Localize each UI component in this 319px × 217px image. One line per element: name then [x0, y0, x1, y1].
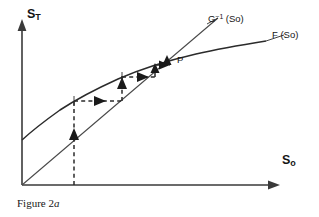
- figure-caption: Figure 2a: [17, 197, 59, 209]
- cobweb-arrow-right-1-icon: [94, 96, 106, 106]
- fso-curve: [22, 41, 266, 140]
- figure-caption-suffix: a: [54, 197, 60, 209]
- y-axis-label: ST: [27, 8, 41, 21]
- figure-caption-text: Figure 2: [17, 197, 54, 209]
- cobweb-arrow-right-2-icon: [137, 72, 149, 82]
- x-axis-label: So: [282, 154, 296, 167]
- cobweb-group: [69, 55, 172, 185]
- ginv-curve-label: G−1 (So): [208, 14, 244, 24]
- fso-curve-group: [22, 35, 284, 140]
- fso-curve-label: F (So): [272, 30, 298, 40]
- x-axis-arrow-icon: [268, 181, 280, 190]
- cobweb-arrow-up-1-icon: [69, 128, 79, 140]
- y-axis-arrow-icon: [18, 19, 27, 31]
- figure-2a-container: ST So G−1 (So) F (So) P Figure 2a: [0, 0, 319, 217]
- fixed-point-p-label: P: [177, 55, 183, 65]
